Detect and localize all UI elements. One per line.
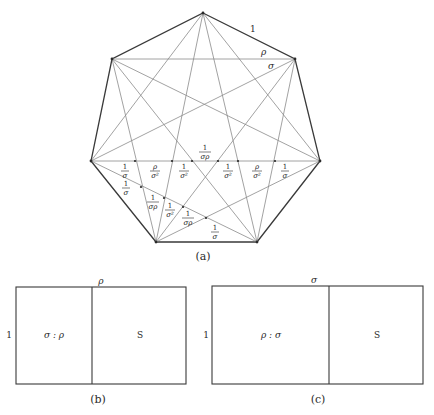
top-label-b: ρ [97, 276, 104, 286]
svg-text:ρ: ρ [152, 163, 158, 171]
svg-text:σ²: σ² [151, 172, 159, 180]
svg-text:1: 1 [226, 163, 230, 171]
fraction-o-5: 1 σ [211, 224, 219, 241]
svg-text:1: 1 [182, 163, 186, 171]
side-length-label: 1 [250, 24, 256, 34]
svg-text:σ²: σ² [253, 172, 261, 180]
long-diagonal-label: σ [268, 61, 275, 71]
svg-text:σρ: σρ [184, 219, 194, 227]
heptagon-figure: 1 ρ σ 1 σρ 1 σ ρ σ² 1 σ² 1 σ² [90, 12, 322, 263]
fraction-o-3: 1 σ² [165, 202, 175, 219]
svg-text:σ²: σ² [224, 172, 232, 180]
svg-text:ρ: ρ [254, 163, 260, 171]
fraction-center-top: 1 σρ [199, 144, 211, 161]
svg-text:σρ: σρ [149, 203, 159, 211]
side-label-c: 1 [203, 330, 209, 340]
svg-text:1: 1 [123, 163, 127, 171]
outer-rectangle-b [16, 287, 186, 384]
fraction-h-6: ρ σ² [252, 163, 262, 180]
short-diagonals [91, 13, 320, 242]
fraction-h-2: ρ σ² [150, 163, 160, 180]
svg-text:1: 1 [186, 210, 190, 218]
caption-b: (b) [90, 393, 106, 406]
fraction-h-7: 1 σ [281, 163, 289, 180]
fraction-o-1: 1 σ [122, 180, 130, 197]
fraction-h-1: 1 σ [121, 163, 129, 180]
svg-text:σ: σ [123, 172, 128, 180]
long-diagonals [91, 13, 320, 242]
svg-text:σ²: σ² [166, 211, 174, 219]
svg-text:1: 1 [283, 163, 287, 171]
svg-text:1: 1 [213, 224, 217, 232]
fraction-o-2: 1 σρ [147, 194, 159, 211]
outer-rectangle-c [212, 286, 423, 384]
fraction-h-3: 1 σ² [179, 163, 189, 180]
svg-text:σ: σ [283, 172, 288, 180]
rectangle-figure-c: σ 1 ρ : σ S (c) [203, 275, 423, 406]
caption-a: (a) [195, 250, 210, 263]
side-label-b: 1 [6, 330, 12, 340]
rectangle-figure-b: ρ 1 σ : ρ S (b) [6, 276, 186, 406]
vertex-nodes [90, 12, 322, 244]
right-cell-label-b: S [137, 330, 143, 340]
svg-text:σρ: σρ [201, 153, 211, 161]
top-label-c: σ [311, 275, 318, 285]
svg-text:1: 1 [203, 144, 207, 152]
left-cell-label-c: ρ : σ [260, 330, 282, 340]
heptagon-outline [91, 13, 320, 242]
svg-text:1: 1 [151, 194, 155, 202]
svg-text:σ²: σ² [180, 172, 188, 180]
diagram-canvas: 1 ρ σ 1 σρ 1 σ ρ σ² 1 σ² 1 σ² [0, 0, 434, 415]
svg-text:σ: σ [124, 189, 129, 197]
svg-text:1: 1 [168, 202, 172, 210]
fraction-h-5: 1 σ² [223, 163, 233, 180]
svg-text:1: 1 [124, 180, 128, 188]
short-diagonal-label: ρ [260, 47, 267, 57]
fraction-o-4: 1 σρ [182, 210, 194, 227]
svg-text:σ: σ [213, 233, 218, 241]
caption-c: (c) [311, 393, 326, 406]
left-cell-label-b: σ : ρ [44, 330, 65, 340]
right-cell-label-c: S [374, 330, 380, 340]
